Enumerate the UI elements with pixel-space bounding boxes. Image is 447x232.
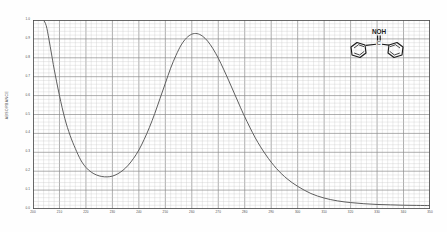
x-axis-tick-label: 240	[136, 211, 141, 214]
x-axis-tick-label: 200	[30, 211, 35, 214]
benzene-ring-right-inner	[390, 45, 400, 48]
y-axis-tick-label: 0.8	[25, 56, 30, 59]
x-axis-tick-label: 300	[295, 211, 300, 214]
x-axis-tick-label: 210	[57, 211, 62, 214]
bond-ring-right-to-c	[382, 44, 389, 45]
y-axis-tick-label: 0.5	[25, 113, 30, 116]
y-axis-tick-labels: 0.00.10.20.30.40.50.60.70.80.91.0	[0, 20, 33, 209]
y-axis-tick-label: 0.4	[25, 132, 30, 135]
x-axis-tick-label: 320	[348, 211, 353, 214]
y-axis-tick-label: 0.6	[25, 94, 30, 97]
x-axis-tick-label: 270	[216, 211, 221, 214]
benzene-ring-left-inner	[354, 45, 364, 48]
molecular-structure-inset: NOH C	[345, 27, 417, 71]
benzene-ring-left-inner2	[354, 51, 364, 55]
x-axis-tick-label: 220	[83, 211, 88, 214]
x-axis-tick-label: 290	[268, 211, 273, 214]
x-axis-tick-label: 310	[321, 211, 326, 214]
x-axis-tick-label: 280	[242, 211, 247, 214]
benzene-ring-right-inner2	[390, 51, 400, 55]
x-axis-tick-label: 350	[427, 211, 432, 214]
x-axis-tick-label: 330	[374, 211, 379, 214]
inset-atom-label-noh: NOH	[372, 28, 387, 35]
y-axis-tick-label: 0.1	[25, 189, 30, 192]
x-axis-tick-label: 230	[110, 211, 115, 214]
spectrum-sheet: ABSORBANCE 0.00.10.20.30.40.50.60.70.80.…	[0, 0, 447, 232]
y-axis-tick-label: 0.3	[25, 151, 30, 154]
x-axis-tick-label: 340	[401, 211, 406, 214]
x-axis-tick-labels: 2002102202302402502602702802903003103203…	[33, 211, 430, 225]
bond-ring-left-to-c	[366, 44, 376, 45]
y-axis-tick-label: 0.9	[25, 37, 30, 40]
y-axis-tick-label: 0.7	[25, 75, 30, 78]
y-axis-tick-label: 0.2	[25, 170, 30, 173]
y-axis-tick-label: 1.0	[25, 18, 30, 21]
x-axis-tick-label: 260	[189, 211, 194, 214]
x-axis-tick-label: 250	[163, 211, 168, 214]
inset-atom-label-c: C	[377, 40, 381, 46]
